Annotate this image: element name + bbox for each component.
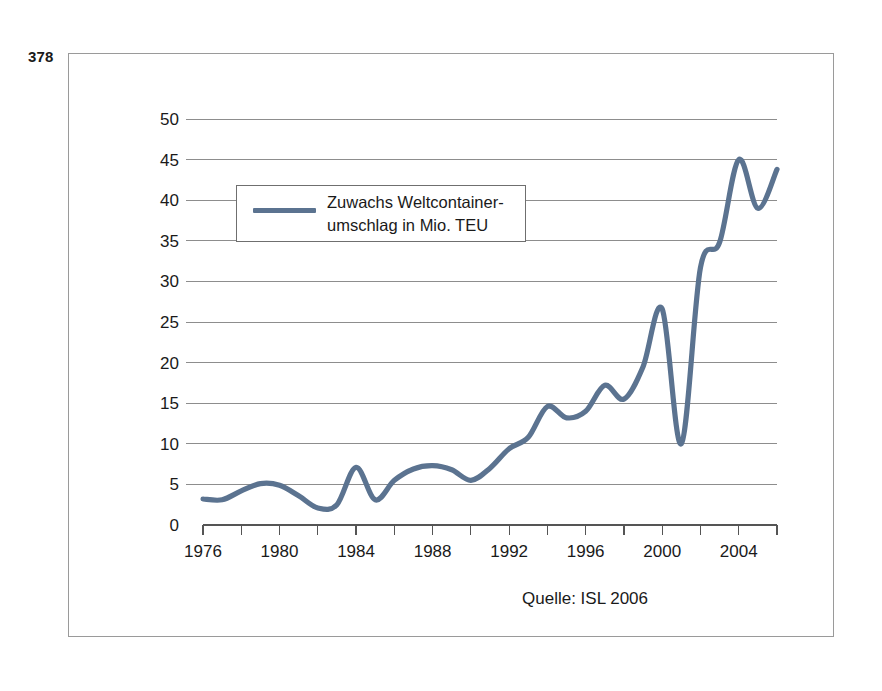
x-tick-labels-group: 19761980198419881992199620002004: [184, 542, 758, 561]
chart-plot-area: 05101520253035404550 1976198019841988199…: [69, 54, 835, 638]
x-tick-label-2000: 2000: [643, 542, 681, 561]
source-caption: Quelle: ISL 2006: [522, 589, 648, 609]
x-tick-label-2004: 2004: [720, 542, 758, 561]
chart-legend: Zuwachs Weltcontainer- umschlag in Mio. …: [236, 185, 526, 242]
x-tick-label-1984: 1984: [337, 542, 375, 561]
axis-lines-group: [203, 525, 777, 535]
figure-frame: 05101520253035404550 1976198019841988199…: [68, 53, 834, 637]
y-tick-label-45: 45: [160, 151, 179, 170]
y-tick-label-10: 10: [160, 435, 179, 454]
line-chart-svg: 05101520253035404550 1976198019841988199…: [69, 54, 835, 638]
x-tick-label-1992: 1992: [490, 542, 528, 561]
x-tick-label-1980: 1980: [261, 542, 299, 561]
y-tick-label-15: 15: [160, 394, 179, 413]
y-tick-label-35: 35: [160, 232, 179, 251]
x-tick-label-1976: 1976: [184, 542, 222, 561]
x-tick-label-1988: 1988: [414, 542, 452, 561]
y-tick-label-50: 50: [160, 110, 179, 129]
axis-ticks-group: [203, 525, 777, 535]
x-tick-label-1996: 1996: [567, 542, 605, 561]
y-tick-label-0: 0: [170, 516, 179, 535]
y-tick-label-5: 5: [170, 475, 179, 494]
y-tick-labels-group: 05101520253035404550: [160, 110, 179, 535]
y-tick-label-20: 20: [160, 354, 179, 373]
y-tick-label-30: 30: [160, 272, 179, 291]
y-tick-label-25: 25: [160, 313, 179, 332]
legend-label: Zuwachs Weltcontainer- umschlag in Mio. …: [327, 191, 522, 237]
y-tick-label-40: 40: [160, 191, 179, 210]
page-number: 378: [28, 48, 54, 65]
gridlines-group: [186, 119, 777, 484]
legend-line-swatch: [253, 208, 316, 213]
